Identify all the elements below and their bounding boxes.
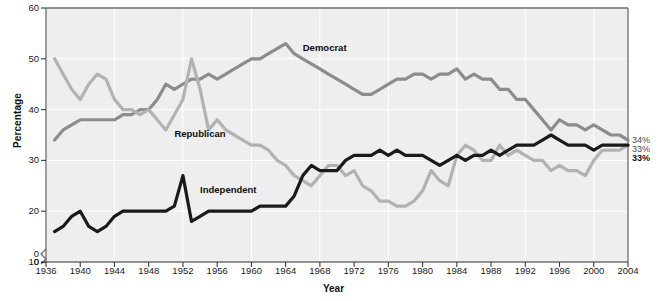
end-label-independent: 33% [632,153,650,163]
series-label-democrat: Democrat [303,43,347,53]
x-tick-label: 2004 [608,266,648,276]
y-tick-label: 50 [11,54,39,64]
y-tick-label-break: 0 [11,249,39,259]
y-tick-label: 40 [11,105,39,115]
series-label-independent: Independent [200,185,256,195]
series-label-republican: Republican [174,129,225,139]
y-tick-label: 30 [11,155,39,165]
y-tick-label: 60 [11,3,39,13]
x-axis-title: Year [0,283,667,294]
y-tick-label: 20 [11,206,39,216]
chart-container: Percentage Year 01020304050600 193619401… [0,0,667,301]
